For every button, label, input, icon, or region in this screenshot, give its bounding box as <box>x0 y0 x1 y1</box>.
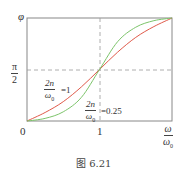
x-axis-den-sub: 0 <box>170 143 173 149</box>
x-tick-1-label: 1 <box>97 126 103 137</box>
series-line-2n-omega-0.25 <box>27 18 172 121</box>
annotation-2n-omega-0.25: 2n ω0 <box>85 100 96 123</box>
chart-canvas <box>0 0 186 171</box>
y-tick-denominator: 2 <box>12 74 17 85</box>
annotation-2-value: =0.25 <box>101 107 122 116</box>
x-axis-denominator: ω0 <box>163 136 173 149</box>
ann2-den-sub: 0 <box>92 117 95 123</box>
ann2-numerator: 2n <box>85 100 96 111</box>
x-origin-label: 0 <box>20 126 26 137</box>
x-axis-label: ω ω0 <box>163 124 173 149</box>
ann1-denominator: ω0 <box>45 90 54 102</box>
ann1-den-sub: 0 <box>51 96 54 102</box>
x-axis-den-omega: ω <box>163 136 170 147</box>
y-tick-numerator: π <box>11 62 18 74</box>
annotation-1-value: =1 <box>61 86 71 95</box>
annotation-2n-omega-1: 2n ω0 <box>44 79 55 102</box>
figure-caption: 图 6.21 <box>76 155 111 170</box>
ann1-numerator: 2n <box>44 79 55 90</box>
y-tick-pi-over-2: π 2 <box>11 62 18 85</box>
ann2-denominator: ω0 <box>86 111 95 123</box>
x-axis-numerator: ω <box>164 124 173 136</box>
y-axis-label: φ <box>18 11 24 22</box>
